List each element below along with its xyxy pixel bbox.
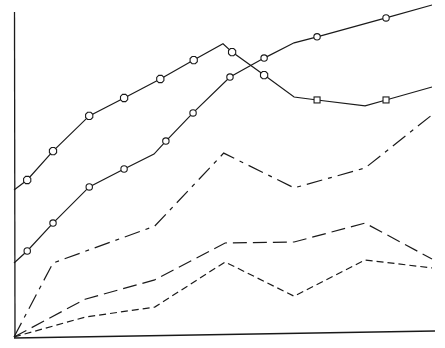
series-2-circle-marker-5 bbox=[121, 166, 127, 172]
series-1-diamond-marker-9 bbox=[229, 49, 236, 56]
series-2-circle-marker-2 bbox=[24, 248, 30, 254]
series-1-diamond-marker-7 bbox=[190, 57, 197, 64]
series-2-circle-marker-13 bbox=[383, 15, 389, 21]
y-axis bbox=[15, 12, 16, 338]
series-2-circle-marker-3 bbox=[50, 220, 56, 226]
series-2-circle-marker-4 bbox=[86, 184, 92, 190]
series-1-square-marker-14 bbox=[383, 97, 389, 103]
series-2-circle-marker-10 bbox=[261, 55, 267, 61]
series-1-diamond-marker-6 bbox=[157, 75, 164, 82]
series-line-4 bbox=[14, 223, 432, 337]
series-1-diamond-marker-4 bbox=[86, 112, 93, 119]
series-2-circle-marker-7 bbox=[163, 138, 169, 144]
series-2-circle-marker-9 bbox=[227, 74, 233, 80]
series-2-circle-marker-8 bbox=[190, 110, 196, 116]
series-2-circle-marker-12 bbox=[314, 34, 320, 40]
series-1-square-marker-12 bbox=[314, 97, 320, 103]
series-1-diamond-marker-5 bbox=[121, 94, 128, 101]
series-1-diamond-marker-3 bbox=[49, 148, 56, 155]
series-1-diamond-marker-10 bbox=[261, 72, 268, 79]
marker-layer bbox=[24, 15, 390, 254]
series-layer bbox=[14, 5, 432, 337]
series-line-1 bbox=[14, 44, 432, 190]
x-axis bbox=[14, 331, 435, 338]
series-line-5 bbox=[14, 260, 432, 337]
line-chart bbox=[0, 0, 445, 348]
series-1-diamond-marker-2 bbox=[24, 176, 31, 183]
